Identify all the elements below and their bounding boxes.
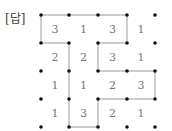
cell-number: 1 <box>80 79 87 92</box>
grid-dot <box>96 97 100 101</box>
grid-dot <box>125 125 129 129</box>
grid-dot <box>96 125 100 129</box>
grid-dot <box>96 69 100 73</box>
grid-dot <box>125 69 129 73</box>
grid-dot <box>125 41 129 45</box>
cell-number: 2 <box>109 107 116 120</box>
cell-number: 1 <box>52 79 59 92</box>
grid-dot <box>153 125 157 129</box>
cell-number: 1 <box>80 23 87 36</box>
grid-dot <box>39 41 43 45</box>
cell-number: 2 <box>80 51 87 64</box>
cell-number: 2 <box>109 79 116 92</box>
cell-number: 3 <box>109 51 116 64</box>
grid-dot <box>39 125 43 129</box>
grid-dot <box>67 125 71 129</box>
cell-number: 2 <box>52 51 59 64</box>
grid-dot <box>67 41 71 45</box>
grid-dot <box>96 13 100 17</box>
grid-dot <box>96 41 100 45</box>
grid-dot <box>67 69 71 73</box>
grid-dot <box>39 69 43 73</box>
cell-number: 3 <box>109 23 116 36</box>
grid-dot <box>125 97 129 101</box>
slitherlink-grid: 3131223111231321 <box>0 0 172 131</box>
cell-number: 1 <box>52 107 59 120</box>
grid-dot <box>39 13 43 17</box>
cell-number: 3 <box>138 79 145 92</box>
grid-dot <box>153 41 157 45</box>
cell-number: 3 <box>80 107 87 120</box>
cell-number: 3 <box>52 23 59 36</box>
cell-number: 1 <box>138 23 145 36</box>
grid-dot <box>125 13 129 17</box>
grid-dot <box>153 13 157 17</box>
cell-number: 1 <box>138 51 145 64</box>
grid-dot <box>67 97 71 101</box>
grid-dot <box>153 69 157 73</box>
cell-number: 1 <box>138 107 145 120</box>
grid-dot <box>153 97 157 101</box>
grid-dot <box>39 97 43 101</box>
grid-dot <box>67 13 71 17</box>
